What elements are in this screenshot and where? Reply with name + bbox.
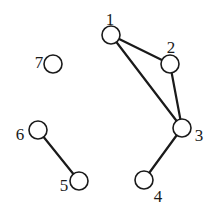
node-label-1: 1 xyxy=(106,10,115,29)
node-label-7: 7 xyxy=(35,53,44,72)
node-3 xyxy=(173,119,191,137)
edge-6-5 xyxy=(38,130,79,181)
node-label-6: 6 xyxy=(16,125,25,144)
node-label-4: 4 xyxy=(154,187,163,206)
node-4 xyxy=(135,171,153,189)
node-5 xyxy=(70,172,88,190)
node-2 xyxy=(161,55,179,73)
edge-1-2 xyxy=(111,35,170,64)
node-label-5: 5 xyxy=(60,176,69,195)
node-7 xyxy=(44,55,62,73)
node-label-2: 2 xyxy=(167,38,176,57)
node-label-3: 3 xyxy=(195,126,204,145)
node-6 xyxy=(29,121,47,139)
graph-diagram: 1234567 xyxy=(0,0,215,215)
